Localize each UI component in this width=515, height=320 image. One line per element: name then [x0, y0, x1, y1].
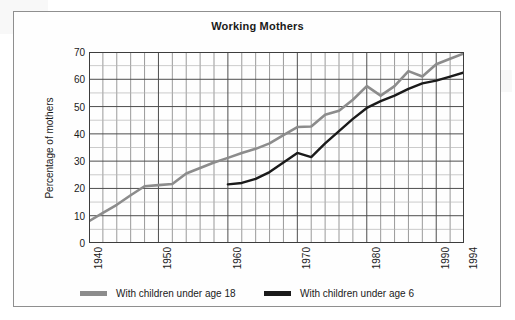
legend-label: With children under age 18	[116, 288, 236, 299]
x-tick-label: 1940	[93, 247, 104, 269]
y-tick-label: 40	[55, 128, 85, 139]
y-tick-label: 60	[55, 74, 85, 85]
series-line-2	[228, 72, 464, 184]
x-tick-label: 1970	[301, 247, 312, 269]
x-tick-label: 1980	[371, 247, 382, 269]
data-series-layer	[89, 53, 464, 221]
legend-item[interactable]: With children under age 6	[264, 286, 414, 300]
plot-svg	[89, 52, 464, 243]
y-tick-label: 50	[55, 101, 85, 112]
x-tick-label: 1994	[468, 247, 479, 269]
x-tick-label: 1950	[162, 247, 173, 269]
y-tick-label: 10	[55, 210, 85, 221]
y-tick-label: 20	[55, 183, 85, 194]
chart-figure: Working Mothers Percentage of mothers 01…	[0, 0, 515, 320]
y-axis-ticks: 010203040506070	[55, 52, 85, 243]
series-line-1	[89, 53, 464, 221]
x-tick-label: 1990	[440, 247, 451, 269]
legend-swatch-icon	[264, 291, 291, 296]
x-axis-ticks: 1940195019601970198019901994	[89, 247, 464, 281]
legend-label: With children under age 6	[300, 288, 414, 299]
page-title: Working Mothers	[0, 20, 515, 32]
legend-inner: With children under age 18With children …	[13, 286, 501, 302]
y-tick-label: 70	[55, 47, 85, 58]
x-tick-label: 1960	[232, 247, 243, 269]
legend-swatch-icon	[80, 291, 107, 296]
legend-item[interactable]: With children under age 18	[80, 286, 236, 300]
y-tick-label: 30	[55, 156, 85, 167]
y-tick-label: 0	[55, 238, 85, 249]
grid-minor	[89, 52, 464, 243]
chart-legend: With children under age 18With children …	[13, 286, 501, 302]
plot-area	[89, 52, 464, 243]
